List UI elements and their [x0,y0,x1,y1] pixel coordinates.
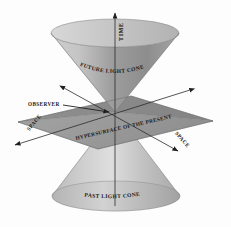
time-axis-label: TIME [117,22,124,41]
light-cone-diagram: TIME FUTURE LIGHT CONE PAST LIGHT CONE H… [0,0,231,227]
observer-label: OBSERVER [28,101,60,107]
diagram-canvas: TIME FUTURE LIGHT CONE PAST LIGHT CONE H… [0,0,231,227]
